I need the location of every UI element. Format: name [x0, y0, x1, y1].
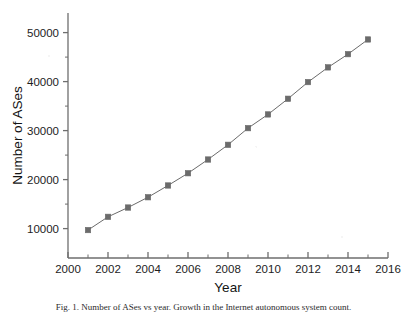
data-point-marker: [125, 205, 130, 210]
data-point-marker: [305, 79, 310, 84]
data-point-marker: [205, 157, 210, 162]
x-tick-label: 2012: [295, 263, 321, 275]
data-point-marker: [245, 125, 250, 130]
data-point-marker: [85, 227, 90, 232]
y-tick-label: 40000: [27, 76, 59, 88]
y-tick-label: 20000: [27, 174, 59, 186]
x-tick-label: 2010: [255, 263, 281, 275]
figure-caption: Fig. 1. Number of ASes vs year. Growth i…: [0, 302, 407, 312]
as-count-line-chart: 1000020000300004000050000200020022004200…: [0, 0, 407, 312]
data-point-marker: [185, 171, 190, 176]
x-tick-label: 2014: [335, 263, 361, 275]
x-tick-label: 2006: [175, 263, 201, 275]
x-tick-label: 2004: [135, 263, 161, 275]
y-tick-label: 50000: [27, 27, 59, 39]
data-point-marker: [265, 112, 270, 117]
data-point-marker: [365, 37, 370, 42]
data-point-marker: [345, 51, 350, 56]
figure-panel: 1000020000300004000050000200020022004200…: [0, 0, 407, 312]
x-tick-label: 2000: [55, 263, 81, 275]
y-tick-label: 10000: [27, 223, 59, 235]
data-point-marker: [285, 96, 290, 101]
x-axis-title: Year: [214, 280, 242, 295]
x-tick-label: 2002: [95, 263, 121, 275]
x-tick-label: 2016: [375, 263, 401, 275]
data-point-marker: [225, 142, 230, 147]
x-tick-label: 2008: [215, 263, 241, 275]
data-point-marker: [105, 214, 110, 219]
y-tick-label: 30000: [27, 125, 59, 137]
data-point-marker: [145, 195, 150, 200]
data-point-marker: [165, 183, 170, 188]
y-axis-title: Number of ASes: [10, 86, 25, 185]
data-point-marker: [325, 65, 330, 70]
